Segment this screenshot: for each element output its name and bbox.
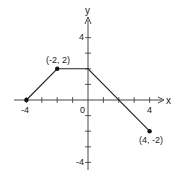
axes xyxy=(14,20,162,170)
point-label-neg2-2: (-2, 2) xyxy=(46,55,70,65)
x-tick-label-neg4: -4 xyxy=(21,105,29,115)
point-label-4-neg2: (4, -2) xyxy=(139,135,163,145)
y-axis-label: y xyxy=(85,5,90,16)
y-tick-label-pos4: 4 xyxy=(79,32,84,42)
point-neg4-0 xyxy=(24,98,28,102)
point-4-neg2 xyxy=(147,129,151,133)
origin-label: 0 xyxy=(80,105,85,115)
y-tick-label-neg4: -4 xyxy=(76,157,84,167)
coordinate-plane: x y 0 -4 4 4 -4 (-2, 2) (4, -2) xyxy=(0,0,182,183)
x-tick-label-pos4: 4 xyxy=(147,105,152,115)
point-neg2-2 xyxy=(55,67,59,71)
x-axis-label: x xyxy=(166,95,171,106)
